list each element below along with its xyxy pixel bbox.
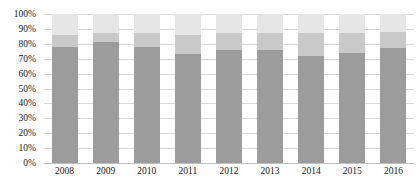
bar-segment-series-3: [339, 14, 365, 33]
plot-area: [44, 14, 414, 163]
bar-segment-series-2: [216, 33, 242, 49]
x-axis-tick-label: 2012: [220, 166, 239, 176]
y-axis: 0%10%20%30%40%50%60%70%80%90%100%: [0, 0, 40, 195]
bar-segment-series-1: [216, 50, 242, 163]
bar-segment-series-1: [175, 54, 201, 163]
x-axis-tick-label: 2009: [96, 166, 115, 176]
bar-segment-series-1: [257, 50, 283, 163]
bar-2010: [134, 14, 160, 163]
bar-2011: [175, 14, 201, 163]
bar-2013: [257, 14, 283, 163]
bar-2009: [93, 14, 119, 163]
y-axis-tick-label: 20%: [19, 128, 36, 138]
bar-segment-series-1: [134, 47, 160, 163]
x-axis: 200820092010201120122013201420152016: [44, 166, 414, 186]
bar-segment-series-2: [134, 33, 160, 46]
y-axis-tick-label: 50%: [19, 84, 36, 94]
y-axis-tick-label: 70%: [19, 54, 36, 64]
bar-segment-series-2: [298, 33, 324, 55]
bar-2016: [380, 14, 406, 163]
y-axis-tick-label: 40%: [19, 98, 36, 108]
bar-segment-series-3: [216, 14, 242, 33]
y-axis-tick-label: 100%: [14, 9, 36, 19]
y-axis-tick-label: 30%: [19, 113, 36, 123]
x-axis-tick-label: 2015: [343, 166, 362, 176]
bar-segment-series-1: [52, 47, 78, 163]
bar-segment-series-3: [298, 14, 324, 33]
bar-2015: [339, 14, 365, 163]
bar-segment-series-2: [339, 33, 365, 52]
x-axis-tick-label: 2016: [384, 166, 403, 176]
bar-segment-series-3: [380, 14, 406, 32]
x-axis-tick-label: 2008: [55, 166, 74, 176]
y-axis-tick-label: 80%: [19, 39, 36, 49]
bar-segment-series-2: [257, 33, 283, 49]
x-axis-tick-label: 2011: [179, 166, 198, 176]
bar-segment-series-3: [134, 14, 160, 33]
bar-segment-series-3: [93, 14, 119, 33]
bar-segment-series-3: [257, 14, 283, 33]
bar-segment-series-2: [52, 35, 78, 47]
bar-2014: [298, 14, 324, 163]
x-axis-tick-label: 2013: [261, 166, 280, 176]
bar-segment-series-1: [380, 48, 406, 163]
y-axis-tick-label: 60%: [19, 69, 36, 79]
x-axis-tick-label: 2014: [302, 166, 321, 176]
bar-segment-series-3: [52, 14, 78, 35]
bar-segment-series-1: [93, 42, 119, 163]
gridline: [44, 163, 414, 164]
bar-segment-series-2: [93, 33, 119, 42]
bar-2008: [52, 14, 78, 163]
stacked-bar-chart: 0%10%20%30%40%50%60%70%80%90%100% 200820…: [0, 0, 419, 195]
bar-segment-series-2: [380, 32, 406, 48]
y-axis-tick-label: 10%: [19, 143, 36, 153]
bar-series-group: [44, 14, 414, 163]
y-axis-tick-label: 90%: [19, 24, 36, 34]
x-axis-tick-label: 2010: [137, 166, 156, 176]
bar-segment-series-3: [175, 14, 201, 35]
y-axis-tick-label: 0%: [23, 158, 36, 168]
bar-segment-series-1: [339, 53, 365, 163]
bar-segment-series-1: [298, 56, 324, 163]
bar-segment-series-2: [175, 35, 201, 54]
bar-2012: [216, 14, 242, 163]
